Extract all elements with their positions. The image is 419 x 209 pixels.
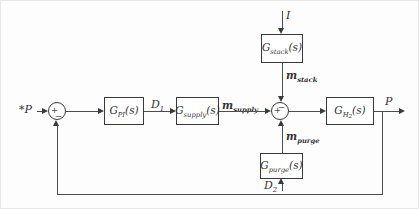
supply-block: Gsupply(s) — [176, 97, 219, 125]
controller-block: GPI(s) — [104, 97, 144, 125]
arrowhead-into-sum2-bottom — [278, 120, 284, 126]
wire-sum2-to-h2 — [289, 111, 321, 112]
reference-input-label: *P — [19, 103, 32, 116]
m-purge-signal-label: mpurge — [286, 130, 319, 145]
arrowhead-into-purge — [278, 178, 284, 184]
supply-label: Gsupply(s) — [175, 104, 220, 119]
m-stack-signal-label: mstack — [286, 69, 317, 84]
stack-block: Gstack(s) — [261, 34, 303, 63]
wire-sum1-to-controller — [66, 111, 99, 112]
arrowhead-into-sum2-top — [278, 96, 284, 102]
controller-label: GPI(s) — [109, 104, 138, 119]
h2-plant-label: GH2(s) — [334, 104, 365, 119]
arrowhead-output — [399, 108, 405, 114]
d2-signal-label: D2 — [264, 179, 277, 194]
wire-stack-to-sum2 — [282, 63, 283, 96]
wire-d2-to-purge — [282, 184, 283, 191]
block-diagram-canvas: *P + − GPI(s) D1 Gsupply(s) msupply + − … — [0, 0, 419, 209]
wire-controller-to-supply — [144, 111, 171, 112]
wire-purge-to-sum2 — [282, 125, 283, 153]
wire-h2-to-output — [374, 111, 400, 112]
purge-block: Gpurge(s) — [260, 153, 303, 179]
sum2-minus-sign: − — [278, 103, 285, 112]
output-signal-label: P — [385, 95, 392, 108]
purge-label: Gpurge(s) — [260, 159, 302, 174]
arrowhead-into-sum1-bottom — [53, 120, 59, 126]
current-input-label: I — [286, 9, 290, 22]
stack-label: Gstack(s) — [262, 41, 302, 56]
wire-current-to-stack — [282, 11, 283, 29]
feedback-wire-left-vertical — [57, 125, 58, 194]
h2-plant-block: GH2(s) — [326, 97, 374, 125]
wire-supply-to-sum2 — [219, 111, 266, 112]
feedback-wire-bottom-horizontal — [57, 194, 383, 195]
feedback-wire-right-vertical — [382, 111, 383, 194]
